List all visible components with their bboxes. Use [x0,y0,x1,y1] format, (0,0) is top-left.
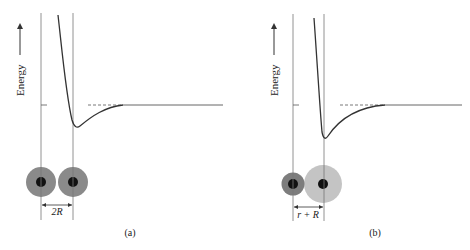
nucleus-b-large [318,179,328,189]
energy-axis-label-a: Energy [14,26,26,96]
energy-diagram: Energy 2R (a) Energy [0,0,470,250]
potential-curve-a [58,15,123,127]
potential-curve-b [314,18,385,138]
distance-label-a: 2R [51,206,62,217]
caption-a: (a) [124,227,135,239]
energy-axis-label-b: Energy [268,26,280,96]
panel-a: Energy 2R (a) [14,13,223,239]
distance-label-b: r + R [297,209,319,220]
caption-b: (b) [369,227,381,239]
energy-label: Energy [14,64,26,96]
energy-label: Energy [268,64,280,96]
panel-b: Energy r + R (b) [268,14,462,239]
